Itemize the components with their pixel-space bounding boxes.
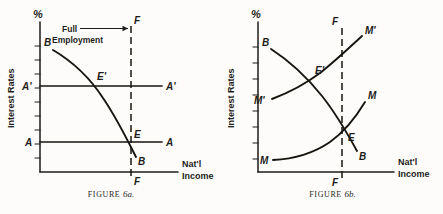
figure-6b-plot: % Interest Rates F F B B M' M' M M E' E … [222, 0, 443, 214]
x-axis-title-line1: Nat'l [182, 159, 201, 169]
equilibrium-e-prime-label: E' [97, 71, 107, 82]
m-label-right: M [368, 90, 377, 101]
x-axis-title-line2: Income [182, 171, 214, 181]
a-prime-label-right: A' [165, 81, 176, 92]
figure-6a-plot: % Interest Rates A' A' A A F F B B E' E … [0, 0, 222, 214]
figure-6a-caption-number: 6a. [123, 189, 134, 199]
a-label-right: A [165, 137, 173, 148]
m-prime-label-left: M' [254, 95, 265, 106]
full-employment-marker-top: F [134, 15, 141, 26]
m-prime-label-right: M' [365, 25, 376, 36]
full-employment-marker-bottom: F [134, 176, 141, 187]
equilibrium-e-label: E [134, 129, 141, 140]
bb-label-bottom: B [138, 156, 145, 167]
full-employment-label-line1: Full [62, 24, 77, 34]
bb-label-top: B [44, 37, 51, 48]
y-axis-title: Interest Rates [6, 68, 16, 128]
x-axis-title-line2: Income [398, 169, 430, 179]
full-employment-label-line2: Employment [52, 35, 103, 45]
x-axis-title-line1: Nat'l [398, 157, 417, 167]
figure-6a-caption: FIGURE 6a. [0, 189, 222, 199]
full-employment-arrow-icon [80, 26, 128, 31]
m-label-left: M [260, 155, 269, 166]
a-prime-label-left: A' [21, 81, 32, 92]
m-schedule-curve [273, 102, 365, 160]
figure-6b-caption-number: 6b. [344, 189, 355, 199]
figure-6b: % Interest Rates F F B B M' M' M M E' E … [222, 0, 443, 214]
y-axis-title: Interest Rates [226, 68, 236, 128]
figure-6b-caption-word: FIGURE [309, 190, 342, 199]
figure-6a-caption-word: FIGURE [88, 190, 121, 199]
figure-6b-caption: FIGURE 6b. [222, 189, 443, 199]
bb-schedule-curve [53, 50, 136, 157]
full-employment-marker-bottom: F [332, 177, 339, 188]
equilibrium-e-prime-label: E' [315, 65, 325, 76]
figure-pair-container: % Interest Rates A' A' A A F F B B E' E … [0, 0, 443, 214]
full-employment-marker-top: F [332, 16, 339, 27]
bb-label-bottom: B [359, 151, 366, 162]
a-label-left: A [24, 137, 32, 148]
figure-6a: % Interest Rates A' A' A A F F B B E' E … [0, 0, 222, 214]
bb-schedule-curve [271, 49, 357, 151]
equilibrium-e-label: E [348, 132, 355, 143]
y-axis-unit-label: % [251, 8, 261, 20]
y-axis-unit-label: % [33, 8, 43, 20]
bb-label-top: B [262, 37, 269, 48]
